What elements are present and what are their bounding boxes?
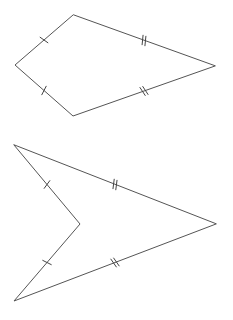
kite-side-right-top-tick-mark [142, 35, 143, 45]
dart-side-right-top-tick-mark [113, 179, 114, 189]
dart-side-notch-bottom-tick-mark [42, 260, 51, 265]
kite-shape [15, 15, 215, 116]
diagram-canvas [0, 0, 233, 320]
kite-outline [15, 15, 215, 116]
kite-side-left-bottom-tick-mark [42, 86, 47, 95]
dart-side-right-top-tick-mark [116, 180, 117, 190]
kite-side-right-top-tick-mark [145, 36, 146, 46]
dart-shape [14, 145, 216, 301]
dart-outline [14, 145, 216, 301]
